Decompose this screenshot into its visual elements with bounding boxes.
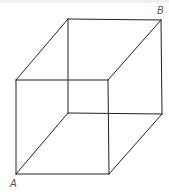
edge-back-right	[161, 20, 162, 114]
edge-connect-top-left	[16, 19, 68, 80]
cube-diagram: B A	[0, 0, 169, 196]
edge-connect-top-right	[108, 20, 161, 80]
edge-connect-bottom-right	[109, 114, 162, 174]
edge-back-bottom	[68, 113, 162, 114]
edge-connect-bottom-left	[16, 113, 68, 174]
vertex-label-a: A	[9, 178, 17, 189]
edge-back-top	[68, 19, 161, 20]
vertex-label-b: B	[157, 5, 164, 16]
edge-front-right	[108, 80, 109, 174]
